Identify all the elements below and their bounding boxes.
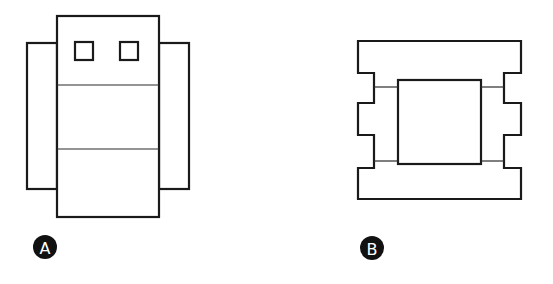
figure-a-right-wing — [159, 43, 189, 189]
figure-a-center-body — [57, 16, 159, 217]
figure-b-badge: B — [360, 236, 384, 260]
figure-a-left-wing — [27, 43, 57, 189]
figure-a — [27, 16, 189, 217]
badge-label-a: A — [40, 239, 51, 258]
figure-b-outer-frame — [358, 41, 521, 199]
diagram-canvas: A B — [0, 0, 553, 284]
badge-label-b: B — [367, 240, 378, 259]
figure-b-inner-square — [398, 80, 481, 164]
figure-a-badge: A — [33, 235, 57, 259]
figure-b — [358, 41, 521, 199]
